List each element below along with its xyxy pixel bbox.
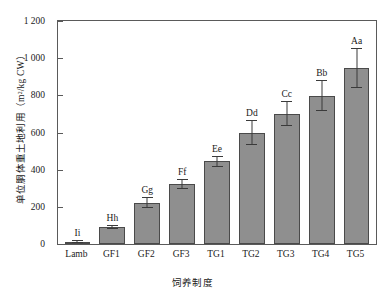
y-axis-tick-label: 1 000 [24,53,45,63]
error-bar-cap-top [246,120,257,121]
x-axis-tick-label: GF1 [103,249,120,259]
y-axis-tick-label: 1 200 [24,16,45,26]
y-axis-tick-label: 200 [31,202,45,212]
y-axis-tick-label: 400 [31,165,45,175]
bar-chart-figure: 单位胴体重土地利用（m²/kg CW） 02004006008001 0001 … [0,0,385,299]
significance-label: Aa [351,36,362,46]
significance-label: Cc [282,89,293,99]
y-axis-tick-label: 600 [31,128,45,138]
bar-slot: Dd [234,21,269,244]
bar-slot: Hh [95,21,130,244]
plot-area: 02004006008001 0001 200 IiHhGgFfEeDdCcBb… [57,20,377,245]
bar[interactable] [204,161,230,244]
x-axis-tick-label: GF2 [138,249,155,259]
error-bar-cap-top [212,156,223,157]
error-bar [182,179,183,189]
significance-label: Ff [178,167,186,177]
error-bar [321,80,322,110]
error-bar-cap-bottom [281,125,292,126]
error-bar-cap-top [107,225,118,226]
error-bar-cap-top [316,80,327,81]
bar-slot: Aa [339,21,374,244]
bar[interactable] [239,133,265,245]
x-axis-tick-label: Lamb [65,249,87,259]
bar-slot: Ii [60,21,95,244]
significance-label: Hh [107,213,119,223]
bar-slot: Ff [165,21,200,244]
x-axis-tick-label: TG5 [347,249,364,259]
bar-group: IiHhGgFfEeDdCcBbAa [58,21,376,244]
error-bar [286,101,287,126]
error-bar-cap-bottom [107,228,118,229]
bar-slot: Bb [304,21,339,244]
error-bar-cap-top [351,48,362,49]
error-bar [112,225,113,229]
bar[interactable] [134,203,160,244]
x-axis-title: 饲养制度 [0,275,385,289]
error-bar-cap-bottom [246,144,257,145]
error-bar [77,240,78,243]
y-axis-tick [58,244,63,245]
bar[interactable] [169,184,195,244]
error-bar-cap-bottom [177,188,188,189]
bar-slot: Gg [130,21,165,244]
significance-label: Bb [316,68,327,78]
y-axis-tick-label: 800 [31,90,45,100]
x-axis-tick-label: TG3 [277,249,294,259]
error-bar [217,156,218,166]
error-bar-cap-bottom [316,110,327,111]
error-bar-cap-top [177,179,188,180]
error-bar [147,197,148,207]
error-bar-cap-top [72,240,83,241]
x-axis-tick-label: GF3 [173,249,190,259]
significance-label: Ii [75,228,81,238]
bar[interactable] [99,227,125,244]
bar-slot: Cc [269,21,304,244]
y-axis-title-text: 单位胴体重土地利用 [16,112,26,204]
significance-label: Gg [141,185,153,195]
significance-label: Ee [212,144,222,154]
error-bar [251,120,252,145]
bar[interactable] [309,96,335,244]
error-bar-cap-bottom [72,242,83,243]
bar[interactable] [274,114,300,244]
error-bar-cap-bottom [142,207,153,208]
x-axis-tick-label: TG2 [242,249,259,259]
error-bar-cap-top [142,197,153,198]
bar-slot: Ee [200,21,235,244]
bar[interactable] [344,68,370,244]
error-bar [356,48,357,88]
x-axis-tick-label: TG4 [312,249,329,259]
x-axis-tick-label: TG1 [207,249,224,259]
y-axis-tick-label: 0 [40,239,45,249]
error-bar-cap-bottom [351,87,362,88]
significance-label: Dd [246,108,258,118]
error-bar-cap-top [281,101,292,102]
error-bar-cap-bottom [212,166,223,167]
